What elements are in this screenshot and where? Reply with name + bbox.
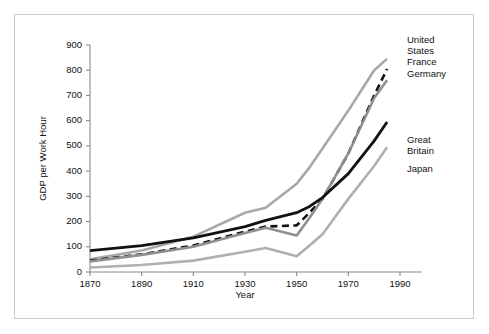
series-label-united-states: States bbox=[407, 45, 434, 56]
y-tick-label: 300 bbox=[66, 190, 82, 201]
series-label-japan: Japan bbox=[407, 163, 433, 174]
y-tick-label: 700 bbox=[66, 89, 82, 100]
line-chart: 0100200300400500600700800900187018901910… bbox=[0, 0, 489, 334]
x-tick-label: 1890 bbox=[131, 278, 152, 289]
series-line-great-britain bbox=[90, 122, 387, 251]
x-tick-label: 1930 bbox=[234, 278, 255, 289]
series-line-germany bbox=[90, 80, 387, 261]
x-tick-label: 1910 bbox=[183, 278, 204, 289]
series-label-united-states: United bbox=[407, 34, 434, 45]
y-axis-title: GDP per Work Hour bbox=[37, 116, 48, 201]
x-tick-label: 1950 bbox=[286, 278, 307, 289]
x-tick-label: 1970 bbox=[338, 278, 359, 289]
y-tick-label: 500 bbox=[66, 139, 82, 150]
axis-lines bbox=[90, 45, 422, 272]
x-axis-title: Year bbox=[235, 289, 254, 300]
y-tick-label: 400 bbox=[66, 165, 82, 176]
x-tick-label: 1990 bbox=[389, 278, 410, 289]
y-tick-label: 800 bbox=[66, 64, 82, 75]
y-tick-label: 900 bbox=[66, 39, 82, 50]
y-tick-label: 100 bbox=[66, 240, 82, 251]
y-tick-label: 200 bbox=[66, 215, 82, 226]
x-tick-label: 1870 bbox=[79, 278, 100, 289]
series-label-france: France bbox=[407, 56, 437, 67]
series-label-great-britain: Britain bbox=[407, 145, 434, 156]
series-label-great-britain: Great bbox=[407, 134, 431, 145]
y-tick-label: 0 bbox=[77, 266, 82, 277]
figure-container: 0100200300400500600700800900187018901910… bbox=[0, 0, 489, 334]
y-tick-label: 600 bbox=[66, 114, 82, 125]
series-label-germany: Germany bbox=[407, 68, 446, 79]
